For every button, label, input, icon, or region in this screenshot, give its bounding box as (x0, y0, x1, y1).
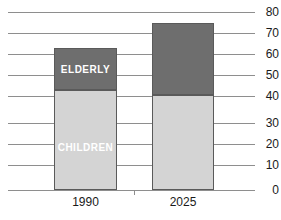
y-tick-label-40: 40 (257, 90, 279, 102)
gridline-60 (8, 54, 255, 55)
gridline-80 (8, 12, 255, 13)
stacked-bar-chart: 80 70 60 50 40 30 20 10 0 ELDERLY CHILDR… (0, 0, 281, 220)
gridline-40 (8, 96, 255, 97)
y-tick-label-70: 70 (257, 27, 279, 39)
y-tick-label-30: 30 (257, 117, 279, 129)
x-tick-label-2025: 2025 (152, 196, 214, 209)
gridline-70 (8, 33, 255, 34)
y-tick-label-60: 60 (257, 48, 279, 60)
bar-1990-segment-elderly: ELDERLY (54, 48, 117, 90)
bar-1990: ELDERLY CHILDREN (54, 48, 117, 190)
y-tick-label-80: 80 (257, 6, 279, 18)
y-tick-label-20: 20 (257, 138, 279, 150)
bar-1990-elderly-label: ELDERLY (55, 64, 116, 75)
gridline-50 (8, 75, 255, 76)
gridline-20 (8, 144, 255, 145)
gridline-10 (8, 165, 255, 166)
bar-2025-segment-elderly (152, 23, 214, 95)
bar-1990-segment-children: CHILDREN (54, 90, 117, 190)
gridline-30 (8, 123, 255, 124)
y-tick-label-50: 50 (257, 69, 279, 81)
bar-2025 (152, 23, 214, 190)
bar-1990-children-label: CHILDREN (55, 142, 116, 153)
y-tick-label-10: 10 (257, 159, 279, 171)
bar-2025-segment-children (152, 95, 214, 190)
x-axis-tick-mark (134, 190, 135, 195)
x-tick-label-1990: 1990 (54, 196, 117, 209)
y-tick-label-0: 0 (257, 184, 279, 196)
x-axis-baseline (8, 190, 255, 191)
